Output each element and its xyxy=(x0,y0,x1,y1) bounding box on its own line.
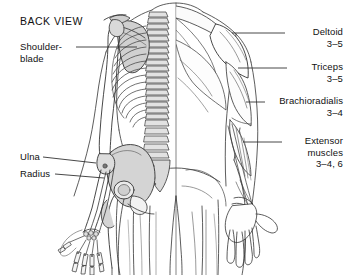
leader-ulna xyxy=(43,157,96,163)
label-triceps: Triceps 3–5 xyxy=(312,61,344,84)
skeletal-hand xyxy=(58,230,104,275)
label-radius: Radius xyxy=(20,168,50,180)
label-deltoid: Deltoid 3–5 xyxy=(313,26,343,49)
label-ulna: Ulna xyxy=(20,151,40,163)
muscle-hand xyxy=(225,204,277,267)
label-shoulder-blade: Shoulder- blade xyxy=(20,41,62,64)
label-extensor-muscles: Extensor muscles 3–4, 6 xyxy=(305,135,343,170)
muscle-half xyxy=(176,6,277,275)
label-brachioradialis: Brachioradialis 3–4 xyxy=(279,95,343,118)
leader-radius xyxy=(55,174,104,178)
skeleton-half xyxy=(58,12,170,275)
